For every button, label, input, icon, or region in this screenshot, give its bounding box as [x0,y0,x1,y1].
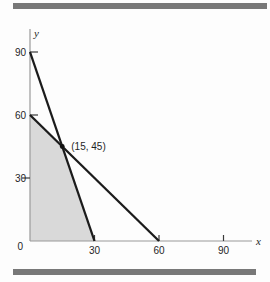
x-tick-label-60: 60 [153,245,165,256]
y-tick-label-90: 90 [15,47,27,58]
y-tick-label-60: 60 [15,110,27,121]
y-tick-label-30: 30 [15,173,27,184]
bottom-rule-bar [13,269,256,275]
intersection-point [60,144,65,149]
intersection-label: (15, 45) [71,141,105,152]
x-tick-label-90: 90 [218,245,230,256]
y-axis-title: y [33,27,39,39]
feasible-region-chart: 3060903060900(15, 45)xy [0,0,270,282]
x-tick-label-30: 30 [89,245,101,256]
x-axis-title: x [255,235,261,247]
feasible-region [30,115,95,241]
origin-label: 0 [17,241,23,252]
textbook-figure-page: 3060903060900(15, 45)xy [0,0,270,282]
